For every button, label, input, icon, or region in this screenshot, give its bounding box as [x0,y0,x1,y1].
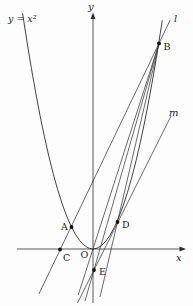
point-e-label: E [99,266,106,277]
line-m-label: m [169,107,178,118]
point-d-label: D [122,219,130,230]
point-e-dot [92,268,96,272]
point-a-label: A [60,221,68,232]
math-figure: y = x² y x l m A B C D E O [0,0,193,306]
x-axis-arrow-icon [180,247,187,252]
segment-b-d [100,44,159,298]
parabola-diagram-canvas: y = x² y x l m A B C D E O [0,0,193,306]
y-axis-arrow-icon [91,13,96,20]
equation-label: y = x² [7,13,37,24]
point-b-dot [157,42,161,46]
line-l-label: l [174,13,177,24]
parabola-curve [23,13,163,249]
point-a-dot [70,225,74,229]
point-b-label: B [164,41,171,52]
segment-b-o [78,44,159,296]
line-m [78,116,172,303]
point-c-label: C [63,252,70,263]
point-d-dot [116,220,120,224]
x-axis-label: x [176,252,182,263]
y-axis-label: y [87,1,94,12]
segment-b-e [85,44,159,302]
point-c-dot [58,248,62,252]
origin-label: O [81,249,89,260]
